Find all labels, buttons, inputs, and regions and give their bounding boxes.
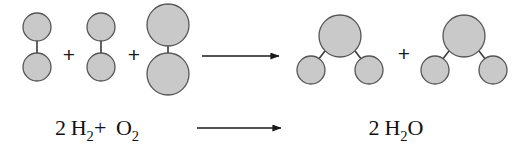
hydrogen-molecule-1: [23, 13, 51, 81]
equation-plus-sign: +: [94, 115, 106, 140]
product-coefficient: 2: [369, 115, 380, 140]
oxygen-atom: [147, 53, 189, 95]
hydrogen-atom: [87, 13, 115, 41]
hydrogen-atom: [87, 53, 115, 81]
hydrogen-subscript: 2: [87, 128, 94, 144]
water-molecule-2: [421, 15, 507, 84]
reactant-coefficient: 2: [55, 115, 66, 140]
hydrogen-atom: [479, 56, 507, 84]
oxygen-atom: [443, 15, 485, 57]
hydrogen-atom: [355, 56, 383, 84]
plus-reactants-2: +: [128, 44, 140, 65]
oxygen-atom: [319, 15, 361, 57]
hydrogen-atom: [23, 53, 51, 81]
plus-reactants-1: +: [63, 44, 75, 65]
product-formula: 2H2O: [369, 117, 424, 139]
oxygen-molecule: [147, 4, 189, 95]
plus-products-1: +: [398, 43, 410, 64]
water-hydrogen-subscript: 2: [400, 128, 407, 144]
oxygen-symbol: O: [116, 115, 132, 140]
hydrogen-symbol: H: [71, 115, 87, 140]
oxygen-atom: [147, 4, 189, 46]
hydrogen-atom: [23, 13, 51, 41]
water-molecule-1: [297, 15, 383, 84]
hydrogen-atom: [297, 56, 325, 84]
water-oxygen-symbol: O: [408, 115, 424, 140]
hydrogen-atom: [421, 56, 449, 84]
reactant-formula: 2H2+O2: [55, 117, 139, 139]
oxygen-subscript: 2: [132, 128, 139, 144]
water-hydrogen-symbol: H: [384, 115, 400, 140]
reaction-diagram: + + + 2H2+O2 2H2O: [0, 0, 530, 155]
hydrogen-molecule-2: [87, 13, 115, 81]
